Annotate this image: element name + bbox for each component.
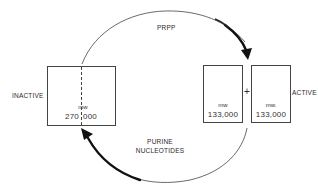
plus-sign: + xyxy=(243,87,251,97)
inactive-box-divider xyxy=(81,67,82,125)
active-1-mw-value: 133,000 xyxy=(204,111,242,119)
active-enzyme-box-2: mw. 133,000 xyxy=(251,65,291,123)
active-1-mw-label: mw xyxy=(204,102,242,108)
prpp-arc xyxy=(82,11,245,64)
inactive-mw-label: mw xyxy=(77,104,89,110)
inactive-label: INACTIVE xyxy=(12,93,44,100)
active-2-mw-label: mw. xyxy=(252,102,290,108)
enzyme-cycle-diagram: mw 270 000 mw 133,000 + mw. 133,000 INAC… xyxy=(0,0,318,191)
inactive-mw-right: 000 xyxy=(83,113,97,121)
active-enzyme-box-1: mw 133,000 xyxy=(203,65,243,123)
inactive-enzyme-box: mw 270 000 xyxy=(47,66,116,126)
prpp-arrowhead-icon xyxy=(241,48,252,60)
active-2-mw-value: 133,000 xyxy=(252,111,290,119)
prpp-label: PRPP xyxy=(157,25,176,32)
purine-label-line1: PURINE xyxy=(135,139,185,146)
prpp-arc-thick xyxy=(225,25,246,50)
inactive-mw-left: 270 xyxy=(65,113,79,121)
purine-label-line2: NUCLEOTIDES xyxy=(130,148,190,155)
active-label: ACTIVE xyxy=(292,90,317,97)
purine-arc-thick xyxy=(88,138,140,180)
purine-arc xyxy=(135,128,247,182)
